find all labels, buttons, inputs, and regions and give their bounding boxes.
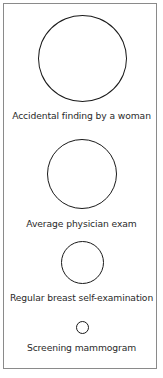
circle-self-examination — [61, 241, 104, 284]
label-accidental-finding: Accidental finding by a woman — [0, 110, 163, 121]
circle-accidental-finding — [38, 15, 127, 102]
circle-physician-exam — [47, 139, 117, 209]
circle-screening-mammogram — [76, 321, 89, 334]
label-self-examination: Regular breast self-examination — [0, 292, 163, 303]
label-screening-mammogram: Screening mammogram — [0, 342, 163, 353]
label-physician-exam: Average physician exam — [0, 218, 163, 229]
